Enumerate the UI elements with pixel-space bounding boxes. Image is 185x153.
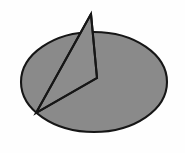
pie-chart-canvas [0,0,185,153]
pie-chart-figure [0,0,185,153]
